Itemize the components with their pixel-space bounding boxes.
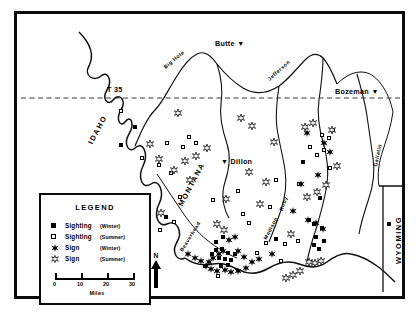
data-point-sign-winter	[314, 165, 321, 172]
legend-row-sighting-summer: Sighting (Summer)	[51, 231, 149, 242]
scale-tick-label: 30	[129, 281, 135, 287]
data-point-sighting-summer	[268, 205, 273, 210]
city-label-butte: Butte ▼	[215, 40, 244, 47]
filled-star-icon	[51, 244, 65, 252]
data-point-sign-summer	[317, 251, 324, 258]
data-point-sign-summer	[170, 160, 177, 167]
data-point-sighting-winter	[301, 160, 306, 165]
data-point-sighting-summer	[178, 195, 183, 200]
map-frame-inner: Butte ▼ Bozeman ▼ ▼ Dillon IDAHO MONTANA…	[17, 14, 402, 296]
scale-numbers: 0 10 20 30	[53, 281, 141, 289]
legend-season: (Winter)	[100, 245, 120, 251]
data-point-sighting-summer	[172, 220, 177, 225]
scale-tick	[107, 273, 109, 280]
data-point-sign-winter	[268, 244, 275, 251]
scale-tick	[81, 273, 83, 280]
data-point-sign-winter	[197, 251, 204, 258]
north-arrow-label: N	[145, 252, 167, 259]
data-point-sign-summer	[333, 156, 340, 163]
filled-square-icon	[51, 223, 65, 228]
scale-tick	[55, 273, 57, 280]
data-point-sighting-summer	[274, 178, 279, 183]
data-point-sign-summer	[237, 108, 244, 115]
data-point-sighting-summer	[241, 212, 246, 217]
data-point-sign-summer	[245, 162, 252, 169]
data-point-sighting-summer	[236, 189, 241, 194]
legend-box: LEGEND Sighting (Winter) Sighting (Summe…	[39, 193, 151, 305]
data-point-sighting-summer	[158, 228, 163, 233]
data-point-sign-winter	[227, 262, 234, 269]
scale-bar: 0 10 20 30 Miles	[53, 273, 141, 296]
triangle-down-icon: ▼	[371, 88, 378, 95]
state-label-wyoming: WYOMING	[395, 216, 402, 264]
scale-tick	[133, 273, 135, 280]
data-point-sign-summer	[313, 182, 320, 189]
data-point-sign-winter	[184, 244, 191, 251]
data-point-sign-summer	[174, 103, 181, 110]
data-point-sign-winter	[297, 174, 304, 181]
data-point-sighting-summer	[187, 135, 192, 140]
data-point-sign-winter	[326, 142, 333, 149]
open-square-icon	[51, 234, 65, 239]
figure-page: Butte ▼ Bozeman ▼ ▼ Dillon IDAHO MONTANA…	[0, 0, 419, 312]
legend-season: (Summer)	[100, 256, 125, 262]
map-frame: Butte ▼ Bozeman ▼ ▼ Dillon IDAHO MONTANA…	[14, 11, 405, 299]
triangle-down-icon: ▼	[221, 158, 228, 165]
data-point-sign-summer	[203, 138, 210, 145]
legend-label: Sighting	[65, 233, 100, 240]
data-point-sighting-summer	[315, 153, 320, 158]
data-point-sign-winter	[319, 219, 326, 226]
data-point-sighting-winter	[387, 222, 392, 227]
open-star-icon	[51, 255, 65, 263]
data-point-sign-summer	[328, 120, 335, 127]
data-point-sign-winter	[255, 249, 262, 256]
data-point-sighting-summer	[181, 145, 186, 150]
scale-tick-label: 10	[77, 281, 83, 287]
data-point-sign-summer	[282, 268, 289, 275]
legend-season: (Winter)	[100, 223, 120, 229]
data-point-sign-summer	[322, 175, 329, 182]
data-point-sign-summer	[157, 203, 164, 210]
data-point-sighting-summer	[140, 156, 145, 161]
scale-tick-label: 0	[53, 281, 56, 287]
data-point-sighting-winter	[318, 196, 323, 201]
data-point-sign-summer	[220, 220, 227, 227]
data-point-sign-summer	[270, 132, 277, 139]
data-point-sign-winter	[213, 261, 220, 268]
data-point-sign-summer	[186, 170, 193, 177]
data-point-sighting-winter	[312, 243, 317, 248]
data-point-sighting-winter	[274, 237, 279, 242]
data-point-sighting-summer	[165, 141, 170, 146]
scale-bar-rule	[55, 278, 135, 280]
data-point-sighting-winter	[133, 125, 138, 130]
data-point-sighting-summer	[328, 166, 333, 171]
data-point-sign-summer	[309, 113, 316, 120]
north-arrow: N	[145, 252, 167, 292]
data-point-sign-winter	[312, 213, 319, 220]
legend-rows: Sighting (Winter) Sighting (Summer) Sign	[51, 220, 149, 264]
data-point-sighting-summer	[194, 141, 199, 146]
data-point-sighting-summer	[279, 259, 284, 264]
data-point-sign-winter	[289, 201, 296, 208]
data-point-sign-winter	[240, 247, 247, 254]
scale-tick-label: 20	[103, 281, 109, 287]
data-point-sighting-summer	[157, 163, 162, 168]
legend-season: (Summer)	[100, 234, 125, 240]
data-point-sighting-summer	[247, 221, 252, 226]
legend-label: Sighting	[65, 222, 100, 229]
data-point-sign-summer	[213, 214, 220, 221]
city-label-bozeman: Bozeman ▼	[335, 88, 379, 95]
data-point-sign-summer	[303, 187, 310, 194]
data-point-sign-winter	[248, 252, 255, 259]
data-point-sign-summer	[192, 146, 199, 153]
data-point-sign-summer	[181, 151, 188, 158]
data-point-sighting-summer	[296, 239, 301, 244]
scale-unit-label: Miles	[53, 290, 141, 296]
data-point-sighting-winter	[322, 239, 327, 244]
data-point-sighting-summer	[283, 242, 288, 247]
data-point-sign-winter	[234, 261, 241, 268]
data-point-sign-winter	[320, 133, 327, 140]
data-point-sign-winter	[231, 227, 238, 234]
scale-bar-line	[53, 273, 141, 280]
legend-label: Sign	[65, 244, 100, 251]
